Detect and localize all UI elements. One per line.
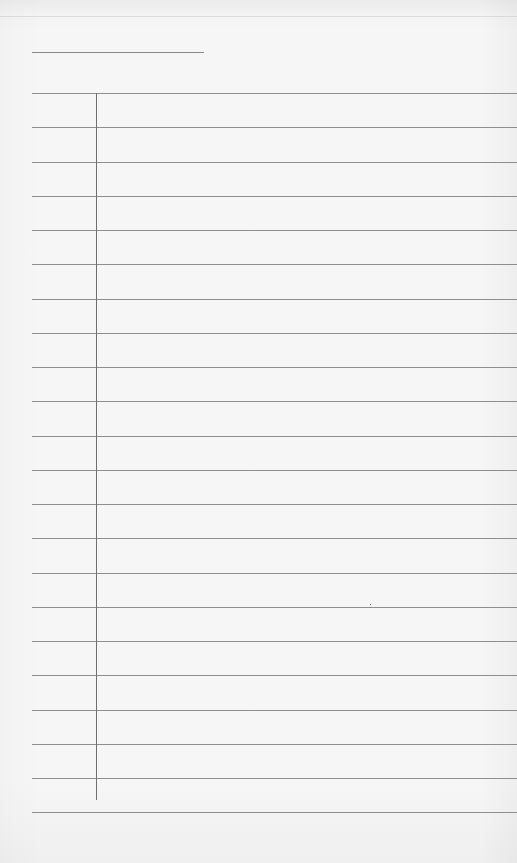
lined-paper-page xyxy=(0,0,517,863)
ruled-line xyxy=(32,196,517,197)
ruled-line xyxy=(32,573,517,574)
name-underline xyxy=(32,52,204,53)
paper-speck xyxy=(370,604,371,605)
ruled-line xyxy=(32,436,517,437)
ruled-line xyxy=(32,162,517,163)
ruled-line xyxy=(32,675,517,676)
ruled-line xyxy=(32,710,517,711)
ruled-line xyxy=(32,504,517,505)
ruled-line xyxy=(32,264,517,265)
ruled-line xyxy=(32,401,517,402)
ruled-line xyxy=(32,812,517,813)
ruled-line xyxy=(32,333,517,334)
ruled-line xyxy=(32,127,517,128)
ruled-line xyxy=(32,230,517,231)
ruled-line xyxy=(32,641,517,642)
ruled-line xyxy=(32,367,517,368)
ruled-line xyxy=(32,470,517,471)
ruled-line xyxy=(32,607,517,608)
ruled-line xyxy=(32,744,517,745)
ruled-line xyxy=(32,93,517,94)
margin-line xyxy=(96,93,97,800)
ruled-line xyxy=(32,299,517,300)
paper-top-edge xyxy=(0,16,517,17)
ruled-line xyxy=(32,538,517,539)
ruled-line xyxy=(32,778,517,779)
